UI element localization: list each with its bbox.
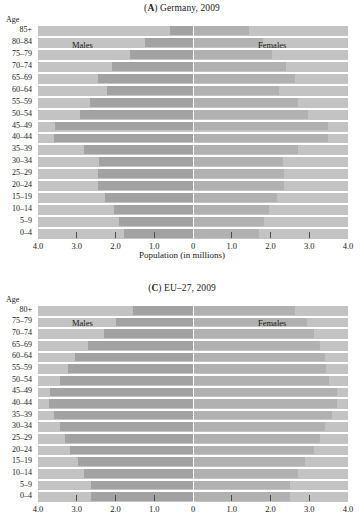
x-axis-tick: [309, 495, 310, 501]
bar-male: [133, 305, 193, 315]
bar-female: [193, 456, 305, 466]
bar-female: [193, 387, 337, 397]
bar-female: [193, 468, 298, 478]
bar-male: [78, 456, 193, 466]
y-axis-tick-label: 55–59: [12, 364, 32, 372]
bar-male: [55, 121, 193, 131]
x-axis-tick: [231, 232, 232, 238]
y-axis-tick-label: 65–69: [12, 74, 32, 82]
y-axis-tick-label: 55–59: [12, 98, 32, 106]
y-axis-tick-label: 50–54: [12, 110, 32, 118]
bar-female: [193, 216, 264, 226]
series-label-females-a: Females: [258, 40, 286, 50]
bar-male: [84, 468, 193, 478]
bar-female: [193, 410, 332, 420]
bar-female: [193, 328, 314, 338]
chart-panel-germany: (A) Germany, 2009 Age 85+80–8475–7970–74…: [0, 0, 364, 266]
bar-male: [114, 204, 193, 214]
bar-male: [65, 433, 193, 443]
bar-male: [90, 97, 193, 107]
bar-male: [107, 85, 193, 95]
bar-female: [193, 375, 329, 385]
y-axis-tick-label: 10–14: [12, 469, 32, 477]
bar-female: [193, 180, 284, 190]
y-axis-tick-label: 75–79: [12, 50, 32, 58]
y-axis-tick-label: 40–44: [12, 399, 32, 407]
y-axis-tick-label: 25–29: [12, 169, 32, 177]
bar-male: [60, 421, 193, 431]
y-axis-labels-c: 80+75–7970–7465–6960–6455–5950–5445–4940…: [0, 304, 35, 502]
bar-female: [193, 480, 290, 490]
x-axis-tick-label: 4.0: [332, 504, 364, 514]
x-axis-tick-label: 4.0: [22, 504, 54, 514]
x-axis-tick: [115, 232, 116, 238]
bar-male: [124, 228, 193, 238]
y-axis-tick-label: 70–74: [12, 62, 32, 70]
y-axis-tick-label: 70–74: [12, 329, 32, 337]
bar-male: [49, 398, 193, 408]
series-label-males-a: Males: [72, 40, 93, 50]
y-axis-tick-label: 25–29: [12, 434, 32, 442]
bar-male: [68, 363, 193, 373]
bar-male: [91, 491, 193, 501]
chart-title-a-rest: ) Germany, 2009: [154, 3, 220, 13]
bar-female: [193, 352, 325, 362]
bar-female: [193, 305, 295, 315]
x-axis-tick-label: 2.0: [100, 504, 132, 514]
y-axis-tick-label: 45–49: [12, 387, 32, 395]
y-axis-tick-label: 0–4: [20, 492, 32, 500]
bar-male: [60, 375, 193, 385]
y-axis-tick-label: 45–49: [12, 122, 32, 130]
series-label-females-c: Females: [258, 318, 286, 328]
y-axis-tick-label: 30–34: [12, 422, 32, 430]
bar-male: [116, 317, 194, 327]
bar-male: [112, 61, 193, 71]
y-axis-tick-label: 35–39: [12, 411, 32, 419]
bar-female: [193, 445, 314, 455]
bar-female: [193, 398, 337, 408]
y-axis-labels-a: 85+80–8475–7970–7465–6960–6455–5950–5445…: [0, 24, 35, 239]
bar-female: [193, 192, 277, 202]
y-axis-tick-label: 35–39: [12, 145, 32, 153]
bar-male: [145, 37, 193, 47]
x-axis-tick-label: 3.0: [61, 504, 93, 514]
bar-female: [193, 61, 286, 71]
x-axis-tick: [270, 495, 271, 501]
bar-female: [193, 491, 290, 501]
y-axis-tick-label: 50–54: [12, 376, 32, 384]
center-axis-line-c: [193, 304, 194, 502]
chart-title-c-rest: ) EU–27, 2009: [158, 283, 216, 293]
plot-area-c: [38, 304, 348, 502]
y-axis-tick-label: 20–24: [12, 446, 32, 454]
bar-female: [193, 228, 259, 238]
x-axis-tick-label: 2.0: [255, 504, 287, 514]
bar-male: [80, 109, 193, 119]
chart-panel-eu27: (C) EU–27, 2009 Age 80+75–7970–7465–6960…: [0, 266, 364, 518]
bar-male: [54, 133, 194, 143]
bar-female: [193, 317, 307, 327]
bar-male: [105, 192, 193, 202]
y-axis-tick-label: 60–64: [12, 86, 32, 94]
bar-female: [193, 85, 279, 95]
bar-male: [98, 180, 193, 190]
x-axis-tick: [154, 495, 155, 501]
bar-male: [130, 49, 193, 59]
bar-male: [91, 480, 193, 490]
bar-male: [70, 445, 193, 455]
x-axis-tick: [76, 495, 77, 501]
y-axis-tick-label: 20–24: [12, 181, 32, 189]
series-label-males-c: Males: [72, 318, 93, 328]
y-axis-tick-label: 80–84: [12, 38, 32, 46]
bar-female: [193, 340, 320, 350]
bar-female: [193, 49, 272, 59]
x-axis-tick: [76, 232, 77, 238]
y-axis-tick-label: 60–64: [12, 352, 32, 360]
bar-male: [98, 168, 193, 178]
bar-female: [193, 144, 298, 154]
bar-female: [193, 73, 295, 83]
bar-male: [119, 216, 193, 226]
bar-female: [193, 363, 326, 373]
y-axis-title-a: Age: [6, 15, 19, 24]
bar-male: [88, 340, 193, 350]
y-axis-tick-label: 5–9: [20, 481, 32, 489]
